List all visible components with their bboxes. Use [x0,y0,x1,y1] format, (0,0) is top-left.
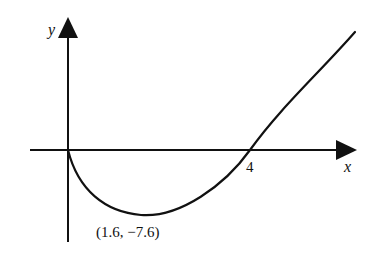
y-axis-arrow-icon [58,17,78,38]
x-axis-arrow-icon [336,140,357,160]
graph-figure: y x 4 (1.6, −7.6) [0,0,369,255]
x-intercept-label: 4 [246,159,254,175]
function-curve [68,32,355,215]
y-axis-label: y [46,21,56,39]
minimum-point-label: (1.6, −7.6) [96,224,159,241]
x-axis-label: x [343,158,351,175]
